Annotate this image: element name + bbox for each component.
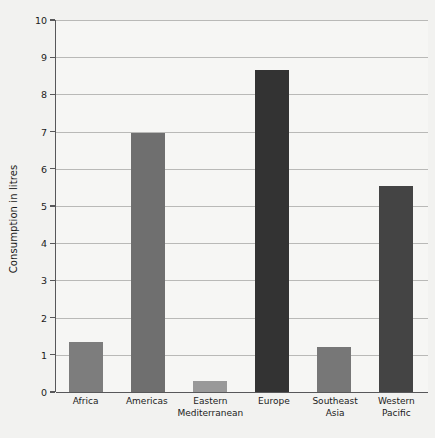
y-axis-tick-label: 8 (41, 89, 47, 100)
y-axis-tick-label: 5 (41, 201, 47, 212)
gridline (56, 20, 428, 21)
y-axis-tick (50, 131, 55, 132)
y-axis-tick (50, 168, 55, 169)
y-axis-tick (50, 391, 55, 392)
y-axis-tick (50, 243, 55, 244)
y-axis-tick (50, 354, 55, 355)
x-axis-label: Eastern Mediterranean (177, 396, 243, 419)
gridline (56, 94, 428, 95)
gridline (56, 206, 428, 207)
plot-area: 012345678910 (55, 20, 428, 392)
y-axis-tick (50, 19, 55, 20)
bar-chart: Consumption in litres 012345678910 Afric… (0, 0, 435, 438)
x-axis-label: Americas (116, 396, 177, 419)
y-axis-tick-label: 1 (41, 349, 47, 360)
y-axis-tick (50, 280, 55, 281)
y-axis-tick-label: 10 (35, 15, 47, 26)
y-axis-tick-label: 9 (41, 52, 47, 63)
y-axis-tick (50, 317, 55, 318)
y-axis-tick (50, 57, 55, 58)
y-axis-tick-label: 0 (41, 387, 47, 398)
y-axis-tick (50, 205, 55, 206)
y-axis-tick-label: 6 (41, 163, 47, 174)
x-axis-line (56, 392, 428, 393)
gridline (56, 57, 428, 58)
y-axis-title: Consumption in litres (0, 0, 26, 438)
y-axis-tick (50, 94, 55, 95)
x-axis-label: Southeast Asia (305, 396, 366, 419)
x-axis-labels: AfricaAmericasEastern MediterraneanEurop… (55, 396, 427, 419)
y-axis-tick-label: 2 (41, 312, 47, 323)
y-axis-tick-label: 3 (41, 275, 47, 286)
x-axis-label: Africa (55, 396, 116, 419)
x-axis-label: Western Pacific (366, 396, 427, 419)
gridline (56, 169, 428, 170)
gridline (56, 243, 428, 244)
gridline (56, 318, 428, 319)
y-axis-tick-label: 7 (41, 126, 47, 137)
gridline (56, 280, 428, 281)
gridline (56, 132, 428, 133)
x-axis-label: Europe (243, 396, 304, 419)
gridline (56, 355, 428, 356)
y-axis-tick-label: 4 (41, 238, 47, 249)
